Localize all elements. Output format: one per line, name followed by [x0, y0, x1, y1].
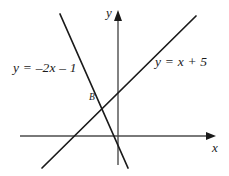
y-axis-label: y	[106, 5, 112, 21]
intersection-point-label: B	[89, 92, 95, 102]
line-rising	[42, 16, 196, 168]
x-axis-arrow-icon	[206, 132, 216, 140]
line-falling-equation-label: y = –2x – 1	[13, 60, 77, 76]
coordinate-plane-figure: y = –2x – 1 y = x + 5 y x B	[0, 0, 229, 176]
axes-group	[20, 10, 216, 165]
x-axis-label: x	[212, 140, 218, 156]
line-rising-equation-label: y = x + 5	[155, 54, 207, 70]
y-axis-arrow-icon	[114, 10, 122, 21]
figure-canvas	[0, 0, 229, 176]
lines-group	[42, 14, 196, 168]
